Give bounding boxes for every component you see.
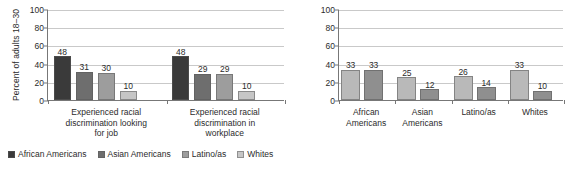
x-category-label-line: Experienced racial — [160, 107, 291, 118]
y-tick-label: 80 — [35, 24, 44, 33]
legend-item: Asian Americans — [98, 149, 171, 159]
y-axis-tick — [335, 82, 339, 83]
y-tick-label: 60 — [326, 42, 335, 51]
y-axis-tick — [44, 28, 48, 29]
x-category-label: Experienced racialdiscrimination looking… — [41, 107, 172, 139]
y-axis-tick-labels-right: 020406080100 — [313, 10, 335, 101]
x-category-label-line: Asian — [390, 107, 454, 118]
chart-panel-left: Percent of adults 18–30 0204060801004831… — [0, 0, 291, 173]
x-category-label-line: workplace — [160, 128, 291, 139]
bar: 48 — [172, 56, 189, 100]
legend-label: Latino/as — [192, 149, 227, 159]
bar: 10 — [238, 91, 255, 100]
bar-value-label: 33 — [515, 61, 524, 70]
y-tick-label: 100 — [321, 6, 335, 15]
legend-label: Asian Americans — [108, 149, 171, 159]
x-axis-tick — [339, 100, 340, 104]
plot-area-right: 3333251226143310 — [338, 10, 563, 101]
bar-value-label: 29 — [220, 65, 229, 74]
x-axis-tick — [395, 100, 396, 104]
x-axis-tick — [564, 100, 565, 104]
x-category-label-line: Whites — [503, 107, 567, 118]
x-category-label-line: for job — [41, 128, 172, 139]
x-axis-tick — [452, 100, 453, 104]
gridline — [48, 46, 284, 47]
legend-swatch-icon — [8, 151, 15, 158]
y-tick-label: 100 — [30, 6, 44, 15]
gridline — [48, 10, 284, 11]
y-tick-label: 40 — [326, 60, 335, 69]
bar-value-label: 26 — [458, 68, 467, 77]
bar: 25 — [397, 77, 416, 100]
bar: 29 — [216, 74, 233, 100]
y-axis-tick — [44, 64, 48, 65]
bar-value-label: 10 — [124, 82, 133, 91]
x-axis-tick — [48, 100, 49, 104]
legend-swatch-icon — [98, 151, 105, 158]
x-axis-tick — [285, 100, 286, 104]
bar: 26 — [454, 76, 473, 100]
y-axis-tick — [44, 82, 48, 83]
bar: 30 — [98, 73, 115, 100]
bar: 33 — [364, 70, 383, 100]
bar-value-label: 10 — [538, 82, 547, 91]
gridline — [48, 28, 284, 29]
bar-value-label: 33 — [369, 61, 378, 70]
figure-root: Percent of adults 18–30 0204060801004831… — [0, 0, 582, 173]
x-category-label: Experienced racialdiscrimination inworkp… — [160, 107, 291, 139]
chart-panel-right: Percent of adults 18–30 0204060801003333… — [291, 0, 582, 173]
plot-container-left: 0204060801004831301048292910Experienced … — [0, 0, 291, 145]
x-axis-tick — [508, 100, 509, 104]
gridline — [339, 10, 563, 11]
y-axis-tick-labels-left: 020406080100 — [22, 10, 44, 101]
x-category-label-line: Latino/as — [447, 107, 511, 118]
legend-item: African Americans — [8, 149, 87, 159]
bar-value-label: 29 — [198, 65, 207, 74]
y-axis-tick — [335, 28, 339, 29]
bar: 33 — [341, 70, 360, 100]
y-tick-label: 60 — [35, 42, 44, 51]
y-axis-tick — [335, 10, 339, 11]
x-category-label-line: discrimination in — [160, 118, 291, 129]
bar-value-label: 12 — [425, 81, 434, 90]
x-category-label-line: Americans — [390, 118, 454, 129]
legend-label: Whites — [247, 149, 273, 159]
gridline — [339, 28, 563, 29]
legend-swatch-icon — [182, 151, 189, 158]
plot-area-left: 4831301048292910 — [47, 10, 284, 101]
legend-left: African AmericansAsian AmericansLatino/a… — [8, 149, 273, 159]
bar-value-label: 30 — [102, 64, 111, 73]
x-category-label-line: Americans — [334, 118, 398, 129]
bar-value-label: 33 — [346, 61, 355, 70]
bar: 14 — [477, 87, 496, 100]
x-category-label-line: discrimination looking — [41, 118, 172, 129]
bar: 29 — [194, 74, 211, 100]
y-tick-label: 80 — [326, 24, 335, 33]
bar: 33 — [510, 70, 529, 100]
legend-label: African Americans — [18, 149, 87, 159]
bar-value-label: 48 — [176, 48, 185, 57]
legend-item: Latino/as — [182, 149, 227, 159]
y-axis-tick — [335, 64, 339, 65]
legend-swatch-icon — [237, 151, 244, 158]
y-axis-tick — [335, 46, 339, 47]
x-category-label: AfricanAmericans — [334, 107, 398, 128]
bar-value-label: 14 — [481, 79, 490, 88]
bar: 10 — [533, 91, 552, 100]
bar: 48 — [54, 56, 71, 100]
gridline — [339, 46, 563, 47]
bar-value-label: 31 — [80, 63, 89, 72]
y-tick-label: 40 — [35, 60, 44, 69]
bar-value-label: 48 — [58, 48, 67, 57]
plot-container-right: 0204060801003333251226143310AfricanAmeri… — [291, 0, 582, 145]
x-category-label: Latino/as — [447, 107, 511, 118]
y-tick-label: 20 — [326, 79, 335, 88]
y-tick-label: 20 — [35, 79, 44, 88]
y-axis-tick — [44, 10, 48, 11]
x-category-label: AsianAmericans — [390, 107, 454, 128]
bar: 10 — [120, 91, 137, 100]
bar-value-label: 25 — [402, 69, 411, 78]
bar-value-label: 10 — [242, 82, 251, 91]
x-category-label-line: African — [334, 107, 398, 118]
x-axis-tick — [167, 100, 168, 104]
